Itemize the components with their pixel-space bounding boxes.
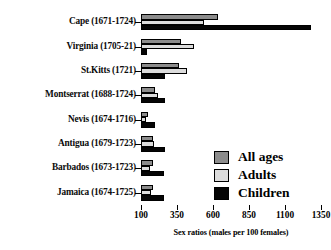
bar-children [141,147,165,152]
y-axis-label: Antigua (1679-1723) [58,139,136,148]
bar-children [141,74,165,79]
bar-allages [141,87,155,92]
y-axis-label: St.Kitts (1721) [81,66,136,75]
bar-group [141,14,321,30]
sex-ratio-bar-chart: Cape (1671-1724)Virginia (1705-21)St.Kit… [0,0,331,250]
bar-children [141,49,147,54]
bar-children [141,122,155,127]
x-tick-label: 600 [206,211,220,220]
y-axis-label: Nevis (1674-1716) [68,115,136,124]
x-axis-title: Sex ratios (males per 100 females) [141,229,321,237]
bar-allages [141,112,148,117]
x-axis: 10035060085011001350 [141,205,321,217]
bar-allages [141,185,153,190]
bar-adults [141,44,194,49]
legend-label: All ages [238,150,283,164]
bar-allages [141,160,153,165]
legend-item: Adults [214,166,326,184]
bar-group [141,112,321,128]
legend-swatch-allages [214,151,229,164]
bar-children [141,171,164,176]
bar-group [141,39,321,55]
legend-item: Children [214,184,326,202]
legend-swatch-children [214,187,229,200]
x-tick-label: 1350 [312,211,331,220]
x-tick-label: 350 [170,211,184,220]
bar-allages [141,63,179,68]
y-axis-label: Cape (1671-1724) [69,17,136,26]
x-tick-label: 1100 [276,211,294,220]
y-axis-label: Montserrat (1688-1724) [45,90,136,99]
legend-label: Adults [238,168,276,182]
y-axis-label: Jamaica (1674-1725) [57,188,136,197]
bar-children [141,195,164,200]
y-axis-labels: Cape (1671-1724)Virginia (1705-21)St.Kit… [0,0,136,205]
legend-swatch-adults [214,169,229,182]
bar-group [141,63,321,79]
x-tick-label: 100 [134,211,148,220]
bar-group [141,87,321,103]
y-axis-label: Virginia (1705-21) [66,42,136,51]
x-tick-label: 850 [242,211,256,220]
bar-allages [141,136,153,141]
legend-item: All ages [214,148,326,166]
legend-label: Children [238,186,290,200]
legend: All agesAdultsChildren [214,148,326,202]
bar-children [141,25,311,30]
y-axis-label: Barbados (1673-1723) [52,163,136,172]
bar-children [141,98,165,103]
bar-allages [141,39,181,44]
bar-allages [141,14,218,19]
